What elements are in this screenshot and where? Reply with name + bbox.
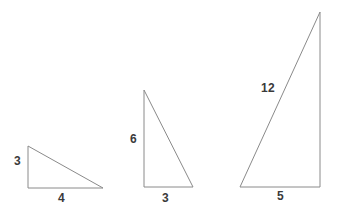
triangle-small-horizontal-leg-label: 4 [58,192,65,204]
triangle-large-hypotenuse-label: 12 [261,82,275,94]
triangle-medium-horizontal-leg-label: 3 [162,192,169,204]
figure-background [0,0,337,215]
geometry-figure-canvas [0,0,337,215]
triangle-medium-vertical-leg-label: 6 [130,133,137,145]
triangle-large-horizontal-leg-label: 5 [277,190,284,202]
triangle-small-vertical-leg-label: 3 [14,155,21,167]
